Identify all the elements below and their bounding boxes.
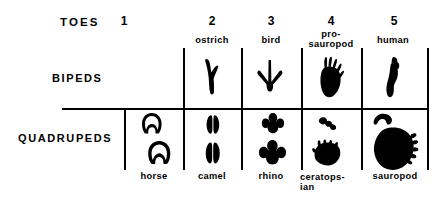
column-number-5: 5 xyxy=(380,15,408,28)
quadruped-name-horse: horse xyxy=(125,172,183,182)
sauropod-pes-icon xyxy=(371,126,419,172)
row-label-quadrupeds: QUADRUPEDS xyxy=(18,133,112,145)
camel-footprint-hind-icon xyxy=(202,141,224,165)
quadruped-name-rhino: rhino xyxy=(243,172,299,182)
column-number-3: 3 xyxy=(257,15,285,28)
vertical-rule-col4-left xyxy=(301,48,303,170)
quadruped-name-ceratopsian-line2: ian xyxy=(300,182,362,192)
quadruped-name-ceratopsian: ceratops- ian xyxy=(300,172,362,192)
biped-name-prosauropod: pro- sauropod xyxy=(302,29,360,49)
biped-name-prosauropod-line2: sauropod xyxy=(302,39,360,49)
vertical-rule-col1-left xyxy=(124,108,126,170)
vertical-rule-col5-left xyxy=(361,48,363,170)
human-footprint-icon xyxy=(380,56,404,102)
rhino-footprint-hind-icon xyxy=(258,139,287,166)
ostrich-footprint-icon xyxy=(202,58,224,100)
rhino-footprint-front-icon xyxy=(261,112,285,134)
camel-footprint-front-icon xyxy=(203,114,223,135)
quadruped-name-camel: camel xyxy=(184,172,240,182)
quadruped-name-sauropod: sauropod xyxy=(362,172,428,182)
biped-name-human: human xyxy=(363,36,423,46)
biped-name-ostrich: ostrich xyxy=(184,36,240,46)
toes-footprint-chart: TOES 1 2 3 4 5 ostrich bird pro- sauropo… xyxy=(0,0,435,198)
horizontal-divider-rule xyxy=(62,108,428,110)
vertical-rule-col3-left xyxy=(241,48,243,170)
ceratopsian-manus-icon xyxy=(316,115,340,133)
column-number-4: 4 xyxy=(317,15,345,28)
row-label-bipeds: BIPEDS xyxy=(52,73,103,85)
quadruped-name-ceratopsian-line1: ceratops- xyxy=(300,172,362,182)
biped-name-prosauropod-line1: pro- xyxy=(302,29,360,39)
vertical-rule-col2-left xyxy=(183,48,185,170)
prosauropod-footprint-icon xyxy=(316,56,346,102)
horse-hoof-hind-icon xyxy=(146,140,173,166)
column-number-1: 1 xyxy=(110,15,138,28)
ceratopsian-pes-icon xyxy=(311,139,345,167)
column-number-2: 2 xyxy=(198,15,226,28)
toes-header-label: TOES xyxy=(60,16,100,28)
vertical-rule-right-edge xyxy=(427,48,429,170)
biped-name-bird: bird xyxy=(243,36,299,46)
bird-footprint-icon xyxy=(255,59,285,99)
horse-hoof-front-icon xyxy=(140,112,164,135)
